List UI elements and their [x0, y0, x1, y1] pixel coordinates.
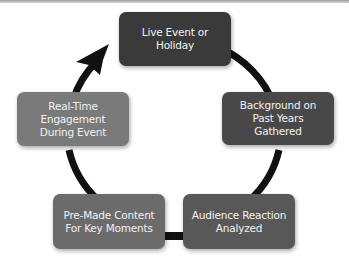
node-label: Live Event or Holiday: [136, 26, 214, 52]
node-pre-made-content: Pre-Made Content For Key Moments: [53, 194, 165, 249]
node-label: Real-Time Engagement During Event: [34, 100, 112, 139]
connector-right-to-bottomright: [250, 150, 279, 200]
node-audience-reaction: Audience Reaction Analyzed: [183, 194, 295, 249]
node-label: Background on Past Years Gathered: [234, 99, 322, 138]
node-label: Pre-Made Content For Key Moments: [58, 209, 161, 235]
node-real-time: Real-Time Engagement During Event: [17, 92, 129, 146]
node-background: Background on Past Years Gathered: [222, 92, 334, 145]
node-label: Audience Reaction Analyzed: [186, 209, 292, 235]
node-live-event: Live Event or Holiday: [119, 12, 231, 66]
connector-bottomleft-to-left: [69, 150, 98, 200]
